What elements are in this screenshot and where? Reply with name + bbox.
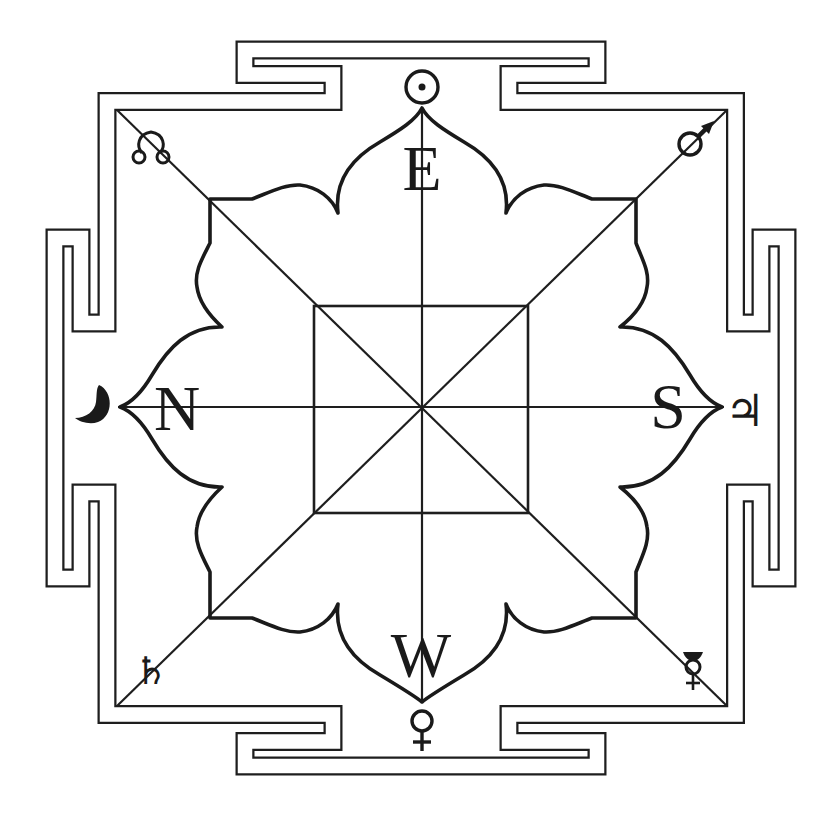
venus-icon: [412, 711, 432, 751]
sun-icon: [406, 71, 438, 103]
moon-icon: [75, 385, 110, 423]
mars-icon: [679, 121, 714, 155]
jupiter-icon: ♃: [725, 385, 764, 436]
north-node-icon: [133, 132, 169, 163]
direction-labels: E N S W: [154, 133, 686, 691]
mercury-icon: [683, 652, 703, 690]
yantra-diagram: E N S W ♃: [0, 0, 840, 819]
direction-east-label: E: [402, 133, 441, 204]
direction-south-label: S: [650, 371, 686, 442]
saturn-icon: ♄: [134, 649, 168, 693]
direction-west-label: W: [391, 620, 452, 691]
direction-north-label: N: [154, 373, 200, 444]
